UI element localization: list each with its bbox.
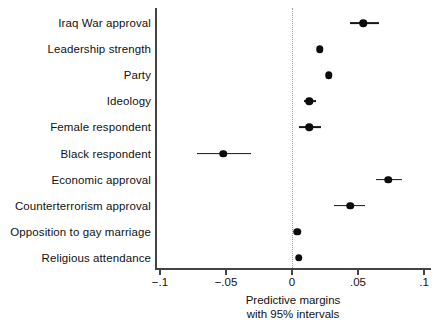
category-label: Counterterrorism approval xyxy=(0,200,151,212)
x-axis-tick-label: .05 xyxy=(350,276,366,289)
data-point-marker xyxy=(294,228,302,236)
x-axis-tick-label: −.05 xyxy=(215,276,238,289)
data-point-marker xyxy=(385,176,393,184)
x-axis-tick xyxy=(357,269,358,275)
category-label: Party xyxy=(0,69,151,81)
data-point-marker xyxy=(305,98,313,106)
x-axis-tick-label: −.1 xyxy=(152,276,168,289)
x-axis-tick xyxy=(291,269,292,275)
caption-line-2: with 95% intervals xyxy=(155,307,431,321)
data-point-marker xyxy=(325,71,333,79)
category-label: Ideology xyxy=(0,95,151,107)
category-label: Leadership strength xyxy=(0,43,151,55)
x-axis-caption: Predictive margins with 95% intervals xyxy=(155,293,431,321)
x-axis-tick-label: 0 xyxy=(289,276,295,289)
category-label: Economic approval xyxy=(0,174,151,186)
category-label: Black respondent xyxy=(0,148,151,160)
data-point-marker xyxy=(295,254,303,262)
x-axis-tick-label: .1 xyxy=(419,276,429,289)
category-label: Female respondent xyxy=(0,121,151,133)
y-axis-line xyxy=(155,8,157,269)
data-point-marker xyxy=(305,124,313,132)
data-point-marker xyxy=(360,19,368,27)
x-axis-tick xyxy=(423,269,424,275)
data-point-marker xyxy=(346,202,354,210)
category-label: Iraq War approval xyxy=(0,17,151,29)
x-axis-tick xyxy=(159,269,160,275)
predictive-margins-chart: Iraq War approvalLeadership strengthPart… xyxy=(0,0,441,333)
caption-line-1: Predictive margins xyxy=(155,293,431,307)
data-point-marker xyxy=(316,45,324,53)
category-label: Opposition to gay marriage xyxy=(0,226,151,238)
category-label: Religious attendance xyxy=(0,252,151,264)
x-axis-line xyxy=(155,268,431,270)
data-point-marker xyxy=(220,150,228,158)
x-axis-tick xyxy=(225,269,226,275)
